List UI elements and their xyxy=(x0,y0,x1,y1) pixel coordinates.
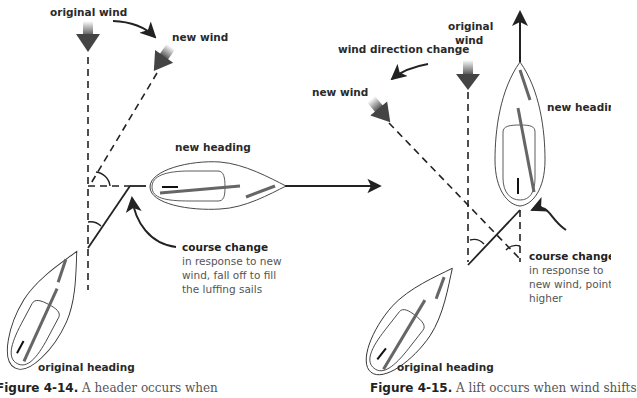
label-new-heading: new heading xyxy=(547,101,611,113)
course-change-note-line: in response to xyxy=(529,264,603,276)
caption-figure-4-14: Figure 4-14. A header occurs when xyxy=(0,381,218,395)
caption-figure-4-15: Figure 4-15. A lift occurs when wind shi… xyxy=(370,381,637,395)
label-new-wind: new wind xyxy=(172,31,228,43)
course-change-arrow-icon xyxy=(132,198,176,247)
course-change-note-line: wind, fall off to fill xyxy=(182,269,276,281)
course-change-note-line: higher xyxy=(529,292,563,304)
caption-number: Figure 4-14. xyxy=(0,381,78,395)
label-course-change: course change xyxy=(182,241,268,253)
wind-shift-arrow-icon xyxy=(392,64,428,79)
label-new-wind: new wind xyxy=(312,86,368,98)
original-wind-arrow-icon xyxy=(456,60,480,90)
label-original-heading: original heading xyxy=(397,361,494,373)
label-original-wind: original wind xyxy=(50,6,127,18)
course-change-note-line: in response to new xyxy=(182,255,282,267)
original-wind-arrow-icon xyxy=(76,21,100,52)
course-change-arrow-icon xyxy=(532,208,566,230)
label-new-heading: new heading xyxy=(175,141,251,153)
boat-original-heading-icon xyxy=(0,240,98,379)
figure-4-14: original wind new wind new heading origi… xyxy=(0,6,380,379)
label-wind-direction-change: wind direction change xyxy=(338,43,469,55)
label-original-wind: original xyxy=(448,20,493,32)
course-change-note-line: new wind, point xyxy=(529,278,611,290)
label-course-change: course change xyxy=(529,250,611,262)
course-change-note-line: the luffing sails xyxy=(182,283,262,295)
boat-new-heading-icon xyxy=(495,62,545,206)
caption-text: A lift occurs when wind shifts xyxy=(456,381,636,395)
caption-number: Figure 4-15. xyxy=(370,381,452,395)
wind-shift-arrow-icon xyxy=(113,21,155,37)
boat-new-heading-icon xyxy=(150,162,286,210)
caption-text: A header occurs when xyxy=(82,381,218,395)
label-original-heading: original heading xyxy=(38,361,135,373)
new-wind-arrow-icon xyxy=(145,40,180,77)
figure-4-15: original wind wind direction change new … xyxy=(312,12,611,387)
